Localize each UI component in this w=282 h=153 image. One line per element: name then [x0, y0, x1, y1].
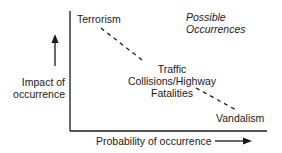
legend-title: Possible Occurrences [186, 11, 246, 35]
y-axis-label: Impact of occurrence [4, 76, 65, 100]
item-traffic-collisions: Traffic Collisions/Highway Fatalities [117, 63, 227, 99]
item-traffic-line-3: Fatalities [117, 87, 227, 99]
y-axis-label-line-2: occurrence [4, 88, 65, 100]
y-axis-label-line-1: Impact of [4, 76, 65, 88]
item-traffic-line-1: Traffic [117, 63, 227, 75]
arrow-right-icon [215, 138, 252, 145]
legend-title-line-1: Possible [186, 11, 246, 23]
item-vandalism: Vandalism [216, 112, 264, 124]
item-traffic-line-2: Collisions/Highway [117, 75, 227, 87]
item-terrorism: Terrorism [77, 13, 121, 25]
arrow-up-icon [52, 34, 59, 66]
x-axis-label: Probability of occurrence [96, 135, 212, 147]
legend-title-line-2: Occurrences [186, 23, 246, 35]
trend-line-upper [101, 28, 142, 60]
